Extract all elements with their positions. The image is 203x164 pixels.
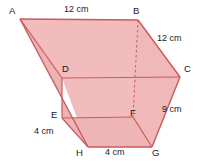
vertex-label-c: C (184, 64, 191, 74)
dimension-label-right-upper-edge: 12 cm (157, 34, 182, 43)
dimension-label-right-lower-edge: 9 cm (162, 105, 182, 114)
dimension-label-top-edge: 12 cm (64, 5, 89, 14)
geometry-diagram: A B C D E F G H 12 cm 12 cm 9 cm 4 cm 4 … (0, 0, 203, 164)
dimension-label-bottom-edge: 4 cm (105, 148, 125, 157)
vertex-label-h: H (76, 148, 83, 158)
edge-ab (20, 19, 138, 20)
vertex-label-g: G (152, 148, 159, 158)
dimension-label-left-lower-edge: 4 cm (34, 127, 54, 136)
vertex-label-d: D (62, 64, 69, 74)
prism-figure (0, 0, 203, 164)
vertex-label-a: A (9, 6, 15, 16)
vertex-label-b: B (133, 6, 139, 16)
vertex-label-f: F (130, 108, 136, 118)
vertex-label-e: E (51, 110, 57, 120)
